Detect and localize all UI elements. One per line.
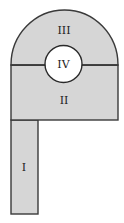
label-ii: II — [60, 94, 69, 107]
label-iv: IV — [57, 58, 70, 71]
label-iii: III — [57, 24, 70, 37]
label-i: I — [22, 161, 26, 174]
composite-figure: III IV II I — [0, 0, 124, 223]
